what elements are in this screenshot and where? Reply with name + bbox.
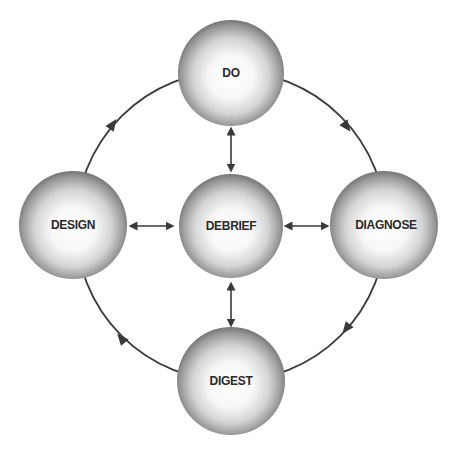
cycle-arrow-do-to-diagnose — [339, 119, 354, 135]
node-label-design: DESIGN — [51, 218, 95, 232]
node-label-debrief: DEBRIEF — [206, 219, 257, 233]
node-design: DESIGN — [19, 171, 127, 279]
node-label-diagnose: DIAGNOSE — [355, 218, 417, 232]
cycle-arrow-digest-to-design — [113, 330, 128, 346]
cycle-diagram: DO DIAGNOSE DIGEST DESIGN DEBRIEF — [0, 0, 456, 449]
node-label-do: DO — [222, 66, 239, 80]
node-diagnose: DIAGNOSE — [330, 171, 438, 279]
node-debrief: DEBRIEF — [179, 174, 283, 278]
node-do: DO — [178, 20, 284, 126]
node-label-digest: DIGEST — [210, 374, 254, 388]
node-digest: DIGEST — [177, 327, 285, 435]
